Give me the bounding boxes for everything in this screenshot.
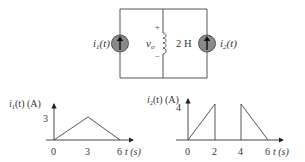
waveform-i2-pulse1 — [188, 104, 215, 140]
chart-i1: i1(t) (A) 3 0 3 6 t (s) — [9, 98, 142, 158]
y-tick-3: 3 — [43, 113, 48, 124]
inductor — [163, 33, 166, 54]
inductor-value: 2 H — [176, 38, 192, 49]
circuit: i1(t) + − vo 2 H i2(t) — [93, 9, 237, 78]
waveform-i1 — [54, 117, 120, 140]
plus-sign: + — [155, 23, 160, 32]
x-tick-0: 0 — [51, 146, 56, 157]
waveform-i2-pulse2 — [241, 104, 268, 140]
current-source-2 — [199, 35, 216, 52]
figure: i1(t) + − vo 2 H i2(t) i1(t) (A) 3 0 3 6… — [0, 0, 305, 162]
x-tick-3: 3 — [85, 146, 90, 157]
y-axis-label: i2(t) (A) — [147, 94, 179, 106]
x-axis-label: t (s) — [125, 146, 142, 158]
y-tick-4: 4 — [176, 102, 181, 113]
x-tick-6: 6 — [117, 146, 122, 157]
x-tick-4: 4 — [238, 146, 243, 157]
minus-sign: − — [155, 52, 160, 61]
circuit-wires — [120, 9, 207, 78]
inductor-voltage-label: vo — [146, 37, 155, 51]
source1-label: i1(t) — [93, 37, 110, 51]
y-axis-label: i1(t) (A) — [9, 98, 41, 110]
inductor-coil-icon — [163, 33, 166, 54]
chart-i2: i2(t) (A) 4 0 2 4 6 t (s) — [147, 94, 290, 158]
x-tick-2: 2 — [212, 146, 217, 157]
x-tick-0: 0 — [185, 146, 190, 157]
source2-label: i2(t) — [220, 37, 237, 51]
current-source-1 — [112, 35, 129, 52]
x-axis-label: t (s) — [273, 146, 290, 158]
x-tick-6: 6 — [265, 146, 270, 157]
